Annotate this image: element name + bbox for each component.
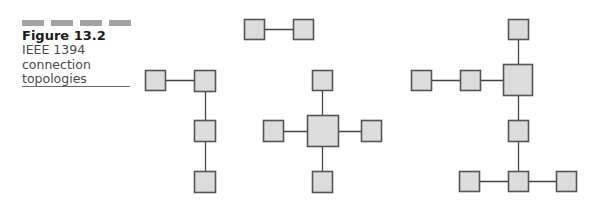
hub-node <box>504 65 533 96</box>
hub-node <box>308 116 339 147</box>
device-node <box>509 20 529 40</box>
device-node <box>461 71 481 91</box>
device-node <box>245 20 265 40</box>
device-node <box>264 121 284 142</box>
device-node <box>557 172 577 192</box>
topology-star <box>264 71 382 193</box>
device-node <box>313 71 333 91</box>
topology-daisy-chain <box>146 71 216 193</box>
device-node <box>509 172 529 192</box>
device-node <box>195 71 216 92</box>
device-node <box>509 121 529 142</box>
device-node <box>195 172 216 193</box>
topology-diagram <box>0 0 597 210</box>
device-node <box>146 71 166 91</box>
device-node <box>313 172 333 193</box>
topology-tree <box>412 20 577 192</box>
topology-point-to-point <box>245 20 314 40</box>
device-node <box>195 121 216 142</box>
device-node <box>460 172 480 192</box>
device-node <box>412 71 432 91</box>
device-node <box>294 20 314 40</box>
device-node <box>362 121 382 142</box>
